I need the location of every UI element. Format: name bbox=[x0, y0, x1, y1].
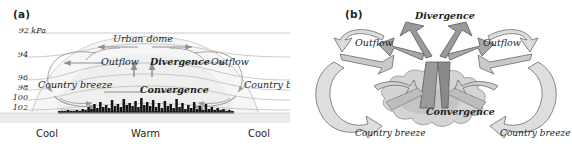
b-convergence-label: Convergence bbox=[426, 106, 495, 117]
skyline-building bbox=[134, 101, 137, 113]
convergence-label: Convergence bbox=[140, 84, 209, 95]
country-breeze-left-line1: Country breeze bbox=[38, 79, 112, 90]
skyline-building bbox=[146, 102, 149, 113]
ground-label-cool-left: Cool bbox=[36, 128, 58, 139]
divergence-arrows bbox=[378, 22, 494, 60]
country-breeze-right-line1: Country breeze bbox=[244, 79, 290, 90]
axis-tick-92: 92 kPa bbox=[2, 26, 46, 35]
ground-strip bbox=[0, 113, 290, 123]
b-country-breeze-left-label: Country breeze bbox=[355, 128, 409, 138]
skyline-building bbox=[175, 99, 178, 113]
outflow-right-label: Outflow bbox=[211, 56, 249, 67]
skyline-building bbox=[152, 100, 155, 113]
figure-urban-heat-island: (a) 92 kPa 94 96 98 100 102 Urban dome O… bbox=[0, 0, 572, 157]
b-outflow-right-label: Outflow bbox=[483, 37, 521, 48]
axis-tick-98: 98 bbox=[2, 83, 28, 92]
skyline-building bbox=[164, 101, 167, 113]
axis-tick-102: 102 bbox=[0, 103, 28, 112]
divergence-label: Divergence bbox=[150, 56, 210, 67]
axis-tick-100: 100 bbox=[0, 93, 28, 102]
b-country-breeze-right-label: Country breeze bbox=[500, 128, 554, 138]
panel-b-label: (b) bbox=[345, 8, 363, 20]
skyline-building bbox=[111, 100, 114, 113]
panel-a-cross-section: (a) 92 kPa 94 96 98 100 102 Urban dome O… bbox=[0, 0, 290, 157]
outflow-left-label: Outflow bbox=[101, 56, 139, 67]
panel-a-label: (a) bbox=[13, 8, 30, 20]
convergence-columns bbox=[420, 62, 450, 108]
urban-dome-label: Urban dome bbox=[113, 33, 173, 44]
b-outflow-left-label: Outflow bbox=[355, 37, 393, 48]
axis-tick-96: 96 bbox=[2, 73, 28, 82]
ground-label-warm: Warm bbox=[131, 128, 160, 139]
axis-tick-94: 94 bbox=[2, 50, 28, 59]
skyline-building bbox=[99, 102, 102, 113]
country-breeze-left-label: Country breeze bbox=[38, 80, 112, 91]
ground-label-cool-right: Cool bbox=[248, 128, 270, 139]
skyline-building bbox=[140, 98, 143, 113]
b-divergence-label: Divergence bbox=[415, 10, 475, 21]
country-breeze-right-label: Country breeze bbox=[244, 80, 288, 91]
skyline-building bbox=[193, 102, 196, 113]
skyline-building bbox=[123, 99, 126, 113]
